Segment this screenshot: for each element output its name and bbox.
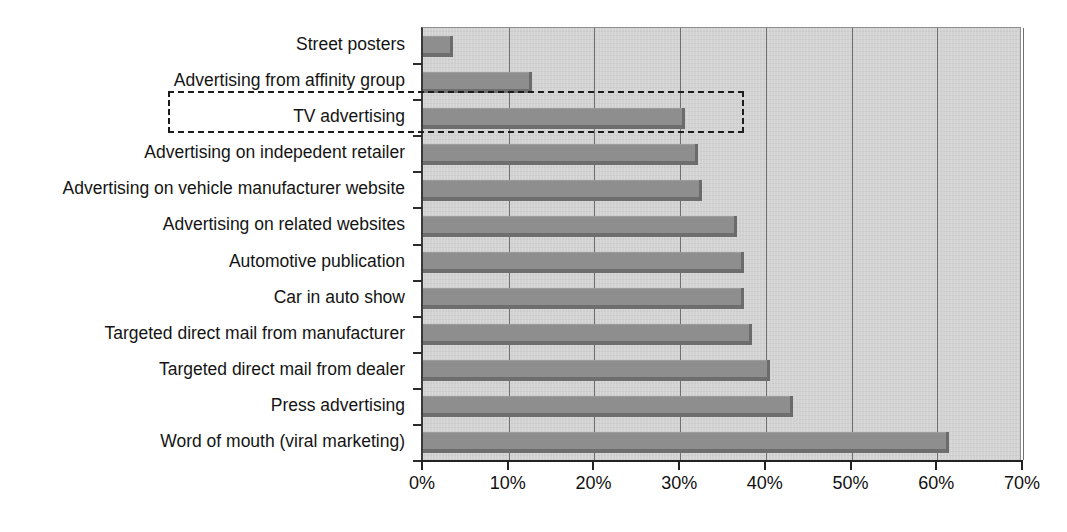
x-axis-tick-label: 50% [833, 474, 869, 492]
x-axis-tick-label: 20% [575, 474, 611, 492]
y-axis-tick [413, 244, 422, 246]
bar [423, 324, 752, 345]
x-axis-tick-label: 40% [747, 474, 783, 492]
bar-band [423, 28, 1020, 64]
bar [423, 108, 685, 129]
category-label: Advertising on related websites [0, 216, 414, 234]
gridline-70pct [1023, 28, 1024, 460]
y-axis-tick [413, 63, 422, 65]
bar-band [423, 425, 1020, 461]
bar-band [423, 317, 1020, 353]
y-axis-tick [413, 352, 422, 354]
category-label: Car in auto show [0, 289, 414, 307]
bar-band [423, 389, 1020, 425]
bar [423, 216, 737, 237]
horizontal-bar-chart: Street postersAdvertising from affinity … [0, 0, 1067, 532]
category-label: Advertising on vehicle manufacturer webs… [0, 180, 414, 198]
category-label: Street posters [0, 36, 414, 54]
x-axis-tick [1021, 460, 1023, 470]
category-label: Advertising on indepedent retailer [0, 144, 414, 162]
y-axis-tick [413, 207, 422, 209]
x-axis-tick [935, 460, 937, 470]
y-axis-tick [413, 99, 422, 101]
chart-screenshot: Street postersAdvertising from affinity … [0, 0, 1067, 532]
bar [423, 360, 770, 381]
category-label: Targeted direct mail from dealer [0, 361, 414, 379]
y-axis-tick [413, 424, 422, 426]
x-axis-tick [850, 460, 852, 470]
bar [423, 288, 744, 309]
x-axis-tick-label: 70% [1004, 474, 1040, 492]
x-axis-tick-label: 30% [661, 474, 697, 492]
bar-band [423, 281, 1020, 317]
category-label: Word of mouth (viral marketing) [0, 433, 414, 451]
y-axis-tick [413, 316, 422, 318]
category-label: Targeted direct mail from manufacturer [0, 325, 414, 343]
bar-band [423, 64, 1020, 100]
bar [423, 36, 453, 57]
y-axis-tick [413, 171, 422, 173]
bar [423, 144, 698, 165]
bar-band [423, 172, 1020, 208]
bar-band [423, 100, 1020, 136]
category-label: Advertising from affinity group [0, 72, 414, 90]
x-axis-line [421, 460, 1021, 462]
x-axis-tick-label: 0% [409, 474, 435, 492]
y-axis-ticks [413, 27, 422, 460]
category-label: Press advertising [0, 397, 414, 415]
x-axis-tick [507, 460, 509, 470]
plot-area [421, 27, 1021, 460]
x-axis-tick [421, 460, 423, 470]
x-axis-tick [678, 460, 680, 470]
bar-band [423, 245, 1020, 281]
bar-band [423, 136, 1020, 172]
category-label: TV advertising [0, 108, 414, 126]
x-axis-tick-label: 10% [490, 474, 526, 492]
y-axis-tick [413, 135, 422, 137]
bar [423, 432, 949, 453]
bar [423, 180, 702, 201]
bar-band [423, 353, 1020, 389]
category-label: Automotive publication [0, 253, 414, 271]
bar [423, 252, 744, 273]
x-axis-tick [764, 460, 766, 470]
bar [423, 72, 532, 93]
x-axis-tick [592, 460, 594, 470]
category-axis-labels: Street postersAdvertising from affinity … [0, 27, 414, 460]
x-axis-tick-label: 60% [918, 474, 954, 492]
y-axis-tick [413, 388, 422, 390]
bar-band [423, 208, 1020, 244]
y-axis-tick [413, 280, 422, 282]
bar [423, 396, 793, 417]
